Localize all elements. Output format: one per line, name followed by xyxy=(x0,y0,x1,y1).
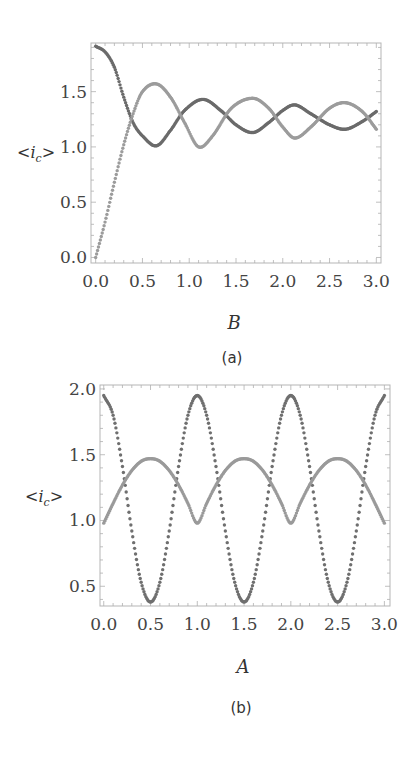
y-axis-label: <ic> xyxy=(17,143,55,165)
series-dark-series xyxy=(94,45,378,148)
y-tick-label: 1.0 xyxy=(69,510,96,530)
x-tick-label: 3.0 xyxy=(371,614,398,634)
x-tick-label: 3.0 xyxy=(363,271,390,291)
y-tick-label: 2.0 xyxy=(69,379,96,399)
x-tick-label: 0.0 xyxy=(82,271,109,291)
figure-caption: (a) xyxy=(222,349,243,367)
x-axis-label: A xyxy=(235,656,250,677)
x-axis-label: B xyxy=(226,312,240,333)
x-tick-label: 1.5 xyxy=(222,271,249,291)
plot-frame xyxy=(100,385,390,606)
x-tick-label: 1.0 xyxy=(176,271,203,291)
y-tick-label: 0.5 xyxy=(69,576,96,596)
x-tick-label: 2.5 xyxy=(324,614,351,634)
y-tick-label: 1.5 xyxy=(60,82,87,102)
x-tick-label: 1.0 xyxy=(184,614,211,634)
chart-b: 0.00.51.01.52.02.53.00.51.01.52.0<ic>A(b… xyxy=(25,379,398,717)
x-tick-label: 2.0 xyxy=(277,614,304,634)
x-tick-label: 2.0 xyxy=(269,271,296,291)
figure-canvas: 0.00.51.01.52.02.53.00.00.51.01.5<ic>B(a… xyxy=(0,0,415,757)
x-tick-label: 0.5 xyxy=(129,271,156,291)
series-solid-series xyxy=(102,457,386,525)
axis-ticks xyxy=(100,385,390,606)
x-tick-label: 0.0 xyxy=(90,614,117,634)
series-dotted-series xyxy=(102,394,386,604)
plot-frame xyxy=(91,43,381,263)
figure-caption: (b) xyxy=(230,699,251,717)
x-tick-label: 1.5 xyxy=(231,614,258,634)
y-tick-label: 0.0 xyxy=(60,247,87,267)
x-tick-label: 0.5 xyxy=(137,614,164,634)
figure: 0.00.51.01.52.02.53.00.00.51.01.5<ic>B(a… xyxy=(0,0,415,757)
y-tick-label: 1.5 xyxy=(69,445,96,465)
x-tick-label: 2.5 xyxy=(316,271,343,291)
axis-ticks xyxy=(91,43,381,263)
y-tick-label: 1.0 xyxy=(60,137,87,157)
series-light-series xyxy=(94,82,378,259)
y-tick-label: 0.5 xyxy=(60,192,87,212)
chart-a: 0.00.51.01.52.02.53.00.00.51.01.5<ic>B(a… xyxy=(17,43,390,367)
y-axis-label: <ic> xyxy=(25,487,63,509)
